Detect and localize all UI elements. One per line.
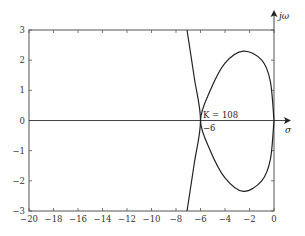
sigma-label: σ	[285, 125, 292, 135]
x-tick-labels: −20−18−16−14−12−10−8−6−4−20	[20, 214, 277, 224]
y-tick-label: 0	[20, 116, 25, 126]
root-locus-chart: −20−18−16−14−12−10−8−6−4−20 3210−1−2−3 σ…	[0, 0, 305, 236]
x-tick-label: −4	[219, 214, 232, 224]
x-tick-label: 0	[271, 214, 276, 224]
x-tick-label: −6	[194, 214, 207, 224]
y-tick-label: 1	[20, 85, 25, 95]
x-tick-label: −8	[170, 214, 183, 224]
x-tick-label: −12	[118, 214, 136, 224]
annotation-gain: K = 108	[203, 110, 238, 120]
jw-label: jω	[277, 11, 290, 21]
y-tick-label: −1	[12, 146, 25, 156]
x-tick-label: −14	[94, 214, 112, 224]
x-tick-label: −2	[243, 214, 256, 224]
y-tick-labels: 3210−1−2−3	[12, 25, 25, 216]
x-tick-label: −16	[69, 214, 87, 224]
x-tick-label: −10	[143, 214, 161, 224]
y-tick-label: 3	[20, 25, 25, 35]
locus-loop-branch	[201, 51, 275, 191]
y-tick-label: 2	[20, 55, 25, 65]
y-tick-label: −3	[12, 206, 25, 216]
y-tick-label: −2	[12, 176, 25, 186]
x-tick-label: −18	[45, 214, 63, 224]
annotation-breakaway: −6	[203, 123, 216, 133]
